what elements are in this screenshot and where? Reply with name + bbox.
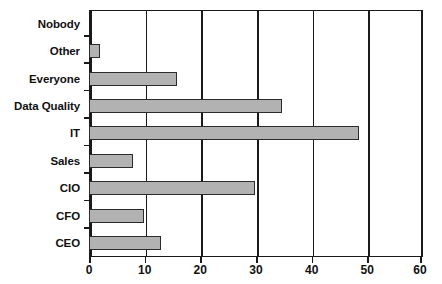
y-axis-label-it: IT xyxy=(0,120,80,147)
bars-layer xyxy=(89,10,423,257)
bar-row xyxy=(89,120,423,147)
y-axis-label-ceo: CEO xyxy=(0,230,80,257)
y-axis-label-nobody: Nobody xyxy=(0,10,80,37)
y-axis-label-everyone: Everyone xyxy=(0,65,80,92)
x-axis-tick-label: 10 xyxy=(138,263,151,277)
x-axis-tick-label: 20 xyxy=(194,263,207,277)
bar-row xyxy=(89,230,423,257)
bar-sales[interactable] xyxy=(89,154,133,168)
x-axis-tick-label: 40 xyxy=(305,263,318,277)
x-axis-tick-label: 60 xyxy=(413,263,426,277)
bar-cio[interactable] xyxy=(89,181,255,195)
bar-row xyxy=(89,202,423,229)
bar-row xyxy=(89,10,423,37)
y-axis-label-other: Other xyxy=(0,37,80,64)
bar-row xyxy=(89,65,423,92)
y-axis-tick xyxy=(84,172,89,174)
x-axis-tick-label: 0 xyxy=(86,263,93,277)
bar-it[interactable] xyxy=(89,126,359,140)
y-axis-tick xyxy=(84,117,89,119)
y-axis-tick xyxy=(84,227,89,229)
y-axis-tick xyxy=(84,62,89,64)
y-axis-tick xyxy=(84,90,89,92)
bar-row xyxy=(89,92,423,119)
bar-cfo[interactable] xyxy=(89,209,144,223)
bar-row xyxy=(89,37,423,64)
x-axis-tick-label: 30 xyxy=(249,263,262,277)
bar-chart: Nobody Other Everyone Data Quality IT Sa… xyxy=(0,0,442,284)
x-axis-tick-label: 50 xyxy=(361,263,374,277)
y-axis-label-cfo: CFO xyxy=(0,202,80,229)
y-axis-label-data-quality: Data Quality xyxy=(0,92,80,119)
y-axis-labels: Nobody Other Everyone Data Quality IT Sa… xyxy=(0,10,80,257)
bar-data-quality[interactable] xyxy=(89,99,282,113)
bar-row xyxy=(89,147,423,174)
y-axis-label-cio: CIO xyxy=(0,175,80,202)
bar-everyone[interactable] xyxy=(89,72,177,86)
bar-other[interactable] xyxy=(89,44,100,58)
bar-row xyxy=(89,175,423,202)
x-axis-labels: 0 10 20 30 40 50 60 xyxy=(0,263,442,283)
y-axis-tick xyxy=(84,200,89,202)
y-axis-label-sales: Sales xyxy=(0,147,80,174)
y-axis-tick xyxy=(84,145,89,147)
bar-ceo[interactable] xyxy=(89,236,161,250)
y-axis-tick xyxy=(84,35,89,37)
